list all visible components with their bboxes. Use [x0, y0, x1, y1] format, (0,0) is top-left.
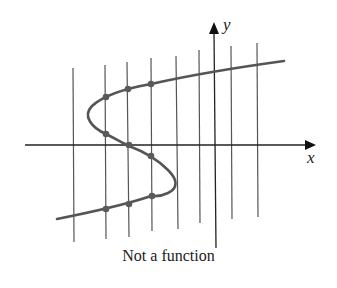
- x-axis: [25, 140, 316, 150]
- intersection-point: [126, 142, 133, 149]
- intersection-point: [126, 201, 133, 208]
- y-axis: [209, 22, 219, 248]
- intersection-point: [103, 94, 110, 101]
- y-axis-arrow-icon: [209, 22, 219, 34]
- intersection-point: [125, 86, 132, 93]
- vertical-line: [105, 65, 106, 239]
- vertical-line: [199, 50, 200, 223]
- vertical-test-lines: [73, 43, 258, 242]
- intersection-point: [148, 81, 155, 88]
- intersection-point: [149, 193, 156, 200]
- vertical-line: [257, 43, 258, 217]
- vertical-line: [176, 56, 178, 229]
- intersection-point: [148, 153, 155, 160]
- s-curve: [57, 61, 284, 219]
- x-axis-label: x: [307, 148, 315, 168]
- intersection-point: [103, 206, 110, 213]
- figure-caption: Not a function: [0, 247, 337, 265]
- intersection-point: [103, 131, 110, 138]
- y-axis-label: y: [223, 15, 231, 35]
- vertical-line-test-diagram: [0, 0, 337, 288]
- vertical-line: [231, 46, 232, 219]
